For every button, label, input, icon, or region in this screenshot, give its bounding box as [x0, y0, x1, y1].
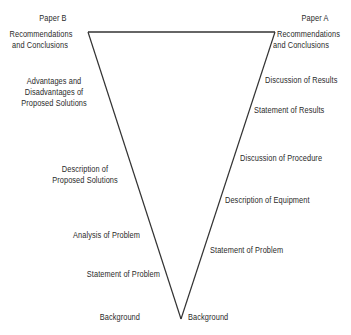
b-label-recommendations-2: and Conclusions [10, 40, 68, 50]
a-label-statement: Statement of Problem [210, 245, 296, 255]
b-label-statement: Statement of Problem [74, 269, 160, 279]
b-label-recommendations-1: Recommendations [10, 29, 68, 39]
right-edge [181, 32, 275, 319]
a-label-statement-results: Statement of Results [254, 105, 331, 115]
b-label-description-2: Proposed Solutions [51, 175, 120, 185]
b-label-advantages-2: Disadvantages of [20, 87, 89, 97]
b-label-advantages-1: Advantages and [20, 76, 89, 86]
b-label-advantages-3: Proposed Solutions [20, 98, 89, 108]
a-label-discussion-procedure: Discussion of Procedure [240, 153, 326, 163]
a-label-recommendations-1: Recommendations [277, 29, 341, 39]
a-label-recommendations-2: and Conclusions [273, 40, 337, 50]
a-label-discussion-results: Discussion of Results [265, 75, 342, 85]
a-label-background: Background [188, 312, 248, 322]
b-label-analysis: Analysis of Problem [54, 230, 140, 240]
paper-a-heading: Paper A [294, 13, 337, 23]
a-label-description-equipment: Description of Equipment [225, 195, 320, 205]
paper-b-heading: Paper B [32, 13, 75, 23]
b-label-description-1: Description of [51, 164, 120, 174]
b-label-background: Background [54, 312, 140, 322]
